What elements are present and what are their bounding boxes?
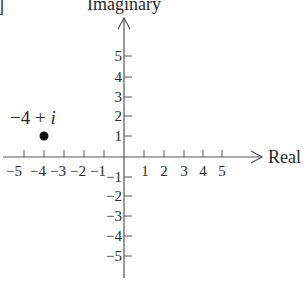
y-tick-label: 5 [115,48,123,64]
y-tick-label: −4 [106,228,122,244]
y-tick-label: −5 [106,248,122,264]
x-tick-label: 2 [160,163,168,179]
y-tick-label: 1 [115,128,123,144]
x-tick-label: 1 [141,163,149,179]
point-label-main: −4 + [10,107,50,128]
imaginary-axis-label: Imaginary [87,0,161,14]
x-tick-label: −4 [30,163,46,179]
complex-plane-diagram: ] Imaginary Real −5 −4 [0,0,304,282]
y-tick-label: 3 [115,89,123,105]
y-tick-label: 4 [115,69,123,85]
y-tick-label: −2 [106,188,122,204]
x-tick-label: 5 [218,163,226,179]
x-tick-label: 4 [199,163,207,179]
real-axis-ticks [24,150,222,157]
point-label: −4 + i [10,107,56,128]
x-tick-label: −3 [50,163,66,179]
bracket-fragment: ] [0,0,4,16]
x-tick-label: 3 [180,163,188,179]
y-tick-label: −3 [106,208,122,224]
real-axis-label: Real [268,147,301,167]
point-label-imaginary-unit: i [50,107,55,128]
x-tick-label: −1 [90,163,106,179]
imaginary-axis-tick-labels: 5 4 3 2 1 −1 −2 −3 −4 −5 [106,48,122,264]
data-point [40,132,49,141]
imaginary-axis-ticks [124,56,132,256]
x-tick-label: −5 [6,163,22,179]
y-tick-label: 2 [115,108,123,124]
x-tick-label: −2 [70,163,86,179]
y-tick-label: −1 [106,169,122,185]
